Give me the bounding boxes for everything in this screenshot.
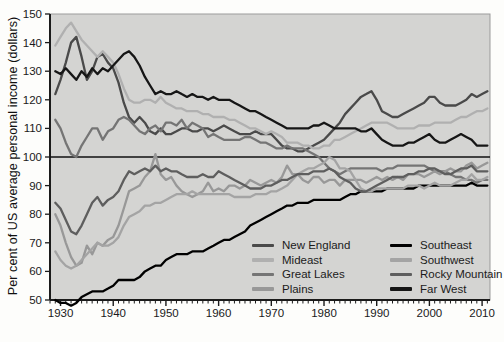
legend: New EnglandSoutheastMideastSouthwestGrea… <box>252 238 502 296</box>
y-axis-title: Per cent of US average personal income (… <box>6 17 20 296</box>
x-tick-label-1980: 1980 <box>311 307 337 319</box>
legend-swatch-rocky-mountain <box>390 273 412 277</box>
regional-income-chart: 5060708090100110120130140150193019401950… <box>0 0 504 342</box>
legend-swatch-southeast <box>390 244 412 248</box>
x-tick-label-1990: 1990 <box>364 307 390 319</box>
legend-item-new-england: New England <box>252 238 388 253</box>
legend-label-southwest: Southwest <box>420 254 474 266</box>
y-tick-label-80: 80 <box>29 208 42 220</box>
x-tick-label-2000: 2000 <box>417 307 443 319</box>
legend-swatch-new-england <box>252 244 274 248</box>
legend-item-southeast: Southeast <box>390 238 502 253</box>
y-tick-label-150: 150 <box>23 8 42 20</box>
y-tick-label-130: 130 <box>23 65 42 77</box>
legend-label-mideast: Mideast <box>282 254 322 266</box>
y-tick-label-70: 70 <box>29 237 42 249</box>
legend-label-rocky-mountain: Rocky Mountain <box>420 268 502 280</box>
legend-swatch-plains <box>252 287 274 291</box>
y-tick-label-50: 50 <box>29 294 42 306</box>
legend-item-great-lakes: Great Lakes <box>252 267 388 282</box>
legend-label-great-lakes: Great Lakes <box>282 268 345 280</box>
legend-swatch-great-lakes <box>252 273 274 277</box>
legend-item-rocky-mountain: Rocky Mountain <box>390 267 502 282</box>
y-tick-label-60: 60 <box>29 265 42 277</box>
y-tick-label-140: 140 <box>23 37 42 49</box>
x-tick-label-1930: 1930 <box>48 307 74 319</box>
y-tick-label-120: 120 <box>23 94 42 106</box>
y-tick-label-110: 110 <box>24 122 42 134</box>
legend-swatch-southwest <box>390 258 412 262</box>
legend-item-plains: Plains <box>252 282 388 297</box>
x-tick-label-1950: 1950 <box>153 307 179 319</box>
legend-swatch-mideast <box>252 258 274 262</box>
legend-swatch-far-west <box>390 287 412 291</box>
legend-item-far-west: Far West <box>390 282 502 297</box>
legend-item-southwest: Southwest <box>390 253 502 268</box>
x-tick-label-1940: 1940 <box>100 307 126 319</box>
y-tick-label-90: 90 <box>29 180 42 192</box>
x-tick-label-1970: 1970 <box>259 307 285 319</box>
x-tick-label-2010: 2010 <box>469 307 495 319</box>
x-tick-label-1960: 1960 <box>206 307 232 319</box>
legend-label-new-england: New England <box>282 239 350 251</box>
legend-item-mideast: Mideast <box>252 253 388 268</box>
y-tick-label-100: 100 <box>23 151 42 163</box>
legend-label-far-west: Far West <box>420 283 466 295</box>
legend-label-southeast: Southeast <box>420 239 472 251</box>
legend-label-plains: Plains <box>282 283 313 295</box>
